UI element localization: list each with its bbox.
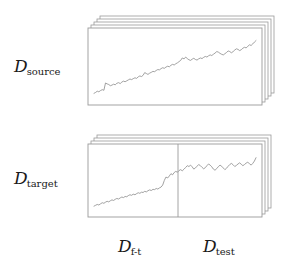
d-symbol-test: D	[203, 236, 216, 256]
source-front-panel	[88, 28, 262, 105]
target-front-panel	[88, 144, 262, 217]
label-d-finetune: Df-t	[118, 238, 142, 255]
d-subscript-source: source	[27, 66, 61, 77]
d-symbol-target: D	[14, 168, 27, 188]
label-d-test: Dtest	[203, 238, 235, 255]
d-subscript-finetune: f-t	[131, 246, 142, 257]
d-symbol-source: D	[14, 56, 27, 76]
d-subscript-test: test	[216, 246, 235, 257]
target-panel-stack	[88, 135, 271, 217]
figure-svg	[0, 0, 296, 267]
figure-canvas: Dsource Dtarget Df-t Dtest	[0, 0, 296, 267]
source-panel-stack	[88, 16, 274, 105]
d-subscript-target: target	[27, 178, 58, 189]
label-d-target: Dtarget	[14, 170, 58, 187]
d-symbol-finetune: D	[118, 236, 131, 256]
label-d-source: Dsource	[14, 58, 61, 75]
